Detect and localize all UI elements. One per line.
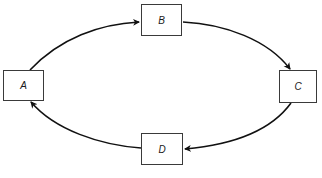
- node-c-label: C: [294, 81, 301, 92]
- edge-c-to-d: [185, 103, 291, 149]
- node-a-label: A: [20, 80, 27, 91]
- cycle-diagram: A B C D: [0, 0, 322, 178]
- edge-a-to-b: [30, 22, 139, 70]
- node-d: D: [141, 133, 183, 165]
- node-b-label: B: [158, 15, 165, 26]
- node-b: B: [141, 4, 182, 36]
- edge-b-to-c: [183, 22, 290, 69]
- node-c: C: [279, 70, 317, 103]
- edge-d-to-a: [31, 102, 141, 148]
- node-d-label: D: [158, 144, 165, 155]
- node-a: A: [3, 70, 44, 101]
